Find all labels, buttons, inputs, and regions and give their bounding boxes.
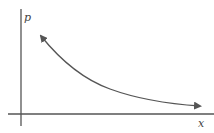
diagram-svg [0, 0, 214, 133]
y-axis-label: p [24, 12, 31, 23]
x-axis-label: x [198, 118, 204, 129]
diagram-canvas: p x [0, 0, 214, 133]
demand-curve [41, 36, 200, 106]
